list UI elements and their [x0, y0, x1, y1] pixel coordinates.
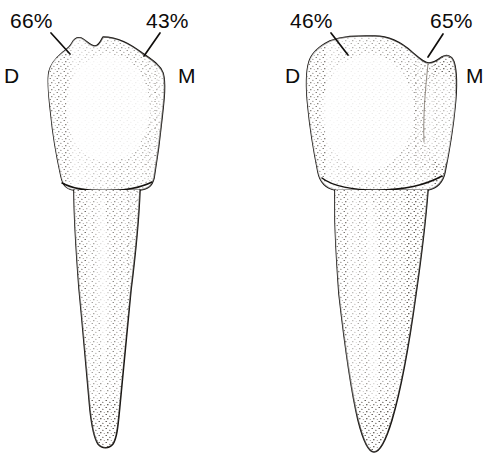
left-mesial-orientation-label: M	[178, 64, 196, 87]
right-root-shading	[330, 186, 434, 458]
tooth-illustration-svg: 66% 43% D M	[0, 0, 492, 463]
right-crown-shading	[300, 30, 462, 195]
left-tooth: 66% 43% D M	[4, 9, 196, 454]
right-mesial-percent-label: 65%	[430, 9, 473, 32]
left-mesial-percent-label: 43%	[146, 9, 189, 32]
right-distal-percent-label: 46%	[290, 9, 333, 32]
left-mesial-leader-line	[144, 33, 160, 56]
left-root-shading	[68, 186, 148, 454]
right-distal-orientation-label: D	[285, 64, 300, 87]
left-distal-leader-line	[51, 33, 70, 54]
tooth-figure: 66% 43% D M	[0, 0, 492, 463]
left-distal-orientation-label: D	[4, 64, 19, 87]
left-distal-percent-label: 66%	[10, 9, 53, 32]
left-crown-shading	[45, 30, 170, 195]
right-mesial-leader-line	[428, 34, 443, 57]
right-tooth: 46% 65% D M	[285, 9, 484, 458]
right-mesial-orientation-label: M	[466, 64, 484, 87]
